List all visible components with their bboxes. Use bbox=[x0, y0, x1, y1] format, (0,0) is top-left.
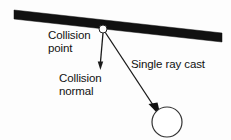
label-single-ray-cast: Single ray cast bbox=[131, 58, 205, 71]
surface-bar bbox=[14, 10, 222, 42]
label-collision-point-line1: Collision bbox=[48, 29, 91, 42]
object-circle bbox=[152, 107, 182, 137]
label-collision-normal-line1: Collision bbox=[59, 72, 102, 85]
ray-cast-line bbox=[105, 32, 161, 117]
label-collision-normal: Collision normal bbox=[59, 72, 102, 98]
collision-point-marker bbox=[99, 25, 107, 33]
collision-normal-arrow bbox=[98, 33, 104, 70]
collision-diagram-figure: Collision point Collision normal Single … bbox=[0, 0, 231, 140]
label-collision-normal-line2: normal bbox=[59, 85, 102, 98]
label-single-ray-cast-line1: Single ray cast bbox=[131, 58, 205, 71]
label-collision-point-line2: point bbox=[48, 42, 91, 55]
label-collision-point: Collision point bbox=[48, 29, 91, 55]
